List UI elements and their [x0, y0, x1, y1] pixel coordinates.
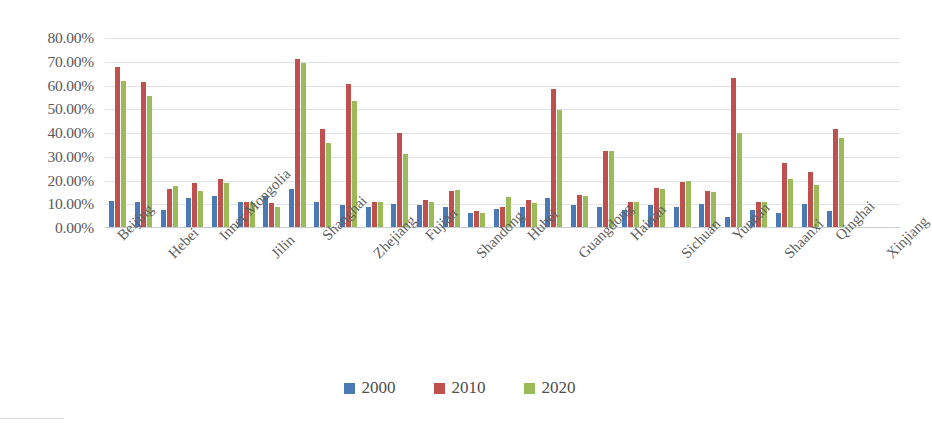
bar-2020 — [301, 63, 306, 228]
bar-2000 — [109, 201, 114, 228]
bar-2010 — [218, 179, 223, 228]
bar-2020 — [198, 191, 203, 228]
x-axis-labels: BeijingHebeiInner MongoliaJilinShanghaiZ… — [0, 228, 919, 338]
legend-label: 2010 — [452, 378, 486, 398]
bar-2010 — [295, 59, 300, 228]
bar-group — [442, 38, 461, 228]
bar-2000 — [289, 189, 294, 228]
bar-2010 — [474, 211, 479, 228]
bar-group — [390, 38, 409, 228]
bar-2020 — [686, 181, 691, 229]
bar-2000 — [186, 198, 191, 228]
bar-2020 — [173, 186, 178, 228]
bar-group — [749, 38, 768, 228]
bar-group — [698, 38, 717, 228]
y-axis-tick-label: 80.00% — [47, 29, 94, 47]
bar-group — [185, 38, 204, 228]
legend-item-2000[interactable]: 2000 — [344, 378, 396, 398]
bar-group — [365, 38, 384, 228]
bar-2010 — [680, 182, 685, 228]
bar-group — [724, 38, 743, 228]
bar-group — [134, 38, 153, 228]
bar-group — [673, 38, 692, 228]
bar-2020 — [326, 143, 331, 229]
plot-area — [105, 38, 900, 228]
bar-2010 — [526, 200, 531, 229]
bar-2010 — [731, 78, 736, 228]
bar-2000 — [571, 205, 576, 228]
bar-2010 — [372, 202, 377, 228]
x-axis-tick-label: Jilin — [268, 232, 298, 262]
bar-group — [775, 38, 794, 228]
y-axis-tick-label: 60.00% — [47, 77, 94, 95]
y-axis-tick-label: 70.00% — [47, 53, 94, 71]
bar-group — [211, 38, 230, 228]
y-axis-tick-label: 20.00% — [47, 172, 94, 190]
y-axis-tick-label: 10.00% — [47, 195, 94, 213]
bar-2020 — [788, 179, 793, 228]
bar-group — [826, 38, 845, 228]
bar-2020 — [121, 81, 126, 228]
bar-group — [801, 38, 820, 228]
bar-group — [493, 38, 512, 228]
y-axis-tick-label: 30.00% — [47, 148, 94, 166]
legend-label: 2000 — [362, 378, 396, 398]
bar-2020 — [275, 207, 280, 228]
bar-2000 — [776, 213, 781, 228]
legend-label: 2020 — [542, 378, 576, 398]
bar-group — [313, 38, 332, 228]
bar-2010 — [423, 200, 428, 229]
legend-swatch-icon — [344, 383, 355, 394]
bar-2020 — [583, 196, 588, 228]
y-axis-tick-label: 50.00% — [47, 100, 94, 118]
bar-2010 — [833, 129, 838, 228]
bar-2000 — [674, 207, 679, 228]
bar-2000 — [161, 210, 166, 228]
bar-2020 — [839, 138, 844, 228]
bar-group — [570, 38, 589, 228]
bar-2020 — [737, 133, 742, 228]
bar-2020 — [557, 110, 562, 228]
bar-2000 — [212, 196, 217, 228]
bar-group — [647, 38, 666, 228]
bar-2020 — [480, 213, 485, 228]
bar-group — [519, 38, 538, 228]
bar-group — [467, 38, 486, 228]
bar-2000 — [314, 202, 319, 228]
bar-group — [544, 38, 563, 228]
bar-2010 — [192, 183, 197, 228]
legend-swatch-icon — [524, 383, 535, 394]
bar-2010 — [577, 195, 582, 228]
bar-2010 — [782, 163, 787, 228]
bar-group — [596, 38, 615, 228]
legend-swatch-icon — [434, 383, 445, 394]
bar-group — [416, 38, 435, 228]
bar-2000 — [827, 211, 832, 228]
footer-divider — [0, 418, 64, 419]
y-axis-tick-label: 40.00% — [47, 124, 94, 142]
bar-group — [878, 38, 897, 228]
bar-2000 — [366, 207, 371, 228]
x-axis-tick-label: Hebei — [165, 225, 202, 262]
bar-2010 — [397, 133, 402, 228]
bar-2010 — [115, 67, 120, 229]
bar-2010 — [551, 89, 556, 228]
bar-group — [108, 38, 127, 228]
bar-2020 — [378, 202, 383, 228]
bar-2010 — [167, 189, 172, 228]
bar-2010 — [269, 203, 274, 228]
legend-item-2020[interactable]: 2020 — [524, 378, 576, 398]
chart-legend: 200020102020 — [0, 378, 919, 398]
bars-layer — [105, 38, 900, 228]
bar-2010 — [320, 129, 325, 228]
bar-group — [288, 38, 307, 228]
y-axis-labels: 80.00%70.00%60.00%50.00%40.00%30.00%20.0… — [0, 38, 100, 228]
bar-group — [160, 38, 179, 228]
legend-item-2010[interactable]: 2010 — [434, 378, 486, 398]
bar-2000 — [468, 213, 473, 228]
